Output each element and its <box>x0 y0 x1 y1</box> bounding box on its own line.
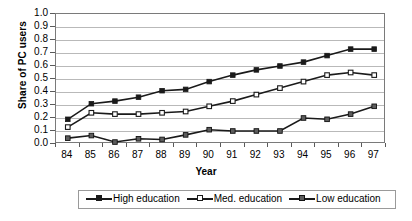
y-tick-label: 0.8 <box>22 34 48 44</box>
chart-legend: High educationMed. educationLow educatio… <box>78 190 396 209</box>
y-tick-label: 0.7 <box>22 47 48 57</box>
legend-label: High education <box>112 193 187 205</box>
data-point-marker <box>183 109 188 114</box>
series-low-education <box>65 104 376 144</box>
x-tick-mark <box>244 143 245 147</box>
x-tick-mark <box>55 143 56 147</box>
x-tick-mark <box>314 143 315 147</box>
data-point-marker <box>160 137 165 142</box>
x-tick-mark <box>220 143 221 147</box>
legend-label: Med. education <box>213 193 289 205</box>
data-point-marker <box>113 140 118 145</box>
data-point-marker <box>89 111 94 116</box>
y-tick-label: 1.0 <box>22 8 48 18</box>
y-tick-label: 0.2 <box>22 112 48 122</box>
x-tick-mark <box>126 143 127 147</box>
data-point-marker <box>65 136 70 141</box>
legend-entry: Med. education <box>187 193 289 205</box>
x-tick-mark <box>291 143 292 147</box>
x-tick-mark <box>338 143 339 147</box>
data-point-marker <box>230 73 235 78</box>
x-tick-mark <box>79 143 80 147</box>
data-point-marker <box>136 137 141 142</box>
series-high-education <box>65 47 376 122</box>
data-point-marker <box>254 129 259 134</box>
legend-marker-icon <box>289 193 315 205</box>
x-tick-mark <box>267 143 268 147</box>
data-point-marker <box>230 99 235 104</box>
x-tick-label: 87 <box>127 150 149 160</box>
y-tick-label: 0.5 <box>22 73 48 83</box>
x-tick-label: 84 <box>56 150 78 160</box>
data-point-marker <box>301 116 306 121</box>
x-tick-mark <box>102 143 103 147</box>
data-point-marker <box>301 79 306 84</box>
x-tick-label: 97 <box>362 150 384 160</box>
x-tick-label: 90 <box>197 150 219 160</box>
data-point-marker <box>89 101 94 106</box>
y-tick-label: 0.3 <box>22 99 48 109</box>
data-point-marker <box>89 133 94 138</box>
data-point-marker <box>348 70 353 75</box>
legend-marker-icon <box>86 193 112 205</box>
y-tick-label: 0.1 <box>22 125 48 135</box>
x-tick-label: 91 <box>221 150 243 160</box>
x-tick-mark <box>149 143 150 147</box>
data-point-marker <box>160 88 165 93</box>
data-point-marker <box>207 79 212 84</box>
data-point-marker <box>372 73 377 78</box>
x-tick-label: 93 <box>268 150 290 160</box>
y-tick-label: 0.0 <box>22 138 48 148</box>
data-point-marker <box>160 111 165 116</box>
data-point-marker <box>278 64 283 69</box>
data-point-marker <box>301 60 306 65</box>
data-point-marker <box>278 129 283 134</box>
y-tick-label: 0.6 <box>22 60 48 70</box>
data-point-marker <box>325 73 330 78</box>
plot-area <box>55 13 385 143</box>
x-axis-title: Year <box>0 166 412 177</box>
legend-entry: Low education <box>289 193 388 205</box>
x-tick-label: 96 <box>339 150 361 160</box>
data-point-marker <box>183 87 188 92</box>
data-point-marker <box>372 47 377 52</box>
pc-users-line-chart: Share of PC users 1.00.90.80.70.60.50.40… <box>0 0 412 221</box>
data-point-marker <box>372 104 377 109</box>
x-tick-label: 86 <box>103 150 125 160</box>
data-point-marker <box>348 47 353 52</box>
data-point-marker <box>207 127 212 132</box>
series-svg <box>56 14 386 144</box>
legend-label: Low education <box>315 193 388 205</box>
x-tick-mark <box>196 143 197 147</box>
legend-marker-icon <box>187 193 213 205</box>
x-tick-label: 88 <box>150 150 172 160</box>
series-layer <box>56 14 384 142</box>
x-tick-mark <box>385 143 386 147</box>
x-tick-label: 92 <box>244 150 266 160</box>
data-point-marker <box>136 95 141 100</box>
y-tick-label: 0.4 <box>22 86 48 96</box>
y-tick-label: 0.9 <box>22 21 48 31</box>
x-tick-mark <box>361 143 362 147</box>
data-point-marker <box>230 129 235 134</box>
data-point-marker <box>113 112 118 117</box>
data-point-marker <box>207 104 212 109</box>
data-point-marker <box>348 112 353 117</box>
x-tick-mark <box>173 143 174 147</box>
data-point-marker <box>254 68 259 73</box>
data-point-marker <box>65 117 70 122</box>
data-point-marker <box>325 117 330 122</box>
x-tick-label: 89 <box>174 150 196 160</box>
data-point-marker <box>325 53 330 58</box>
x-tick-label: 95 <box>315 150 337 160</box>
legend-entry: High education <box>86 193 187 205</box>
data-point-marker <box>65 125 70 130</box>
x-tick-label: 94 <box>292 150 314 160</box>
data-point-marker <box>113 99 118 104</box>
series-line <box>68 49 374 119</box>
data-point-marker <box>183 133 188 138</box>
data-point-marker <box>278 86 283 91</box>
x-tick-label: 85 <box>79 150 101 160</box>
data-point-marker <box>254 92 259 97</box>
data-point-marker <box>136 112 141 117</box>
